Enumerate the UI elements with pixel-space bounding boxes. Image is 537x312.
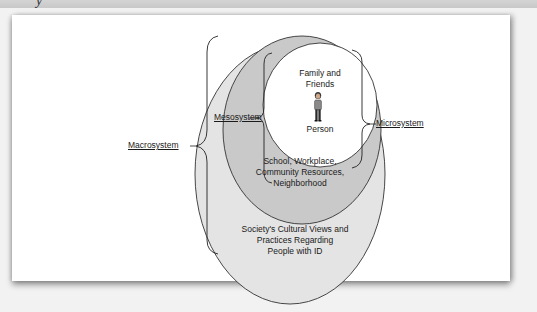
meso-line-3: Neighborhood: [252, 178, 348, 189]
mesosystem-description: School, Workplace, Community Resources, …: [252, 156, 348, 189]
micro-line-1: Family and: [290, 68, 350, 79]
macro-line-2: Practices Regarding: [235, 235, 355, 246]
macrosystem-label: Macrosystem: [128, 140, 179, 151]
mesosystem-label: Mesosystem: [214, 112, 262, 123]
meso-line-2: Community Resources,: [252, 167, 348, 178]
macrosystem-description: Society's Cultural Views and Practices R…: [235, 224, 355, 257]
macro-line-3: People with ID: [235, 246, 355, 257]
person-label: Person: [300, 124, 340, 135]
microsystem-description: Family and Friends: [290, 68, 350, 90]
microsystem-label: Microsystem: [376, 118, 424, 129]
meso-line-1: School, Workplace,: [252, 156, 348, 167]
micro-line-2: Friends: [290, 79, 350, 90]
macro-line-1: Society's Cultural Views and: [235, 224, 355, 235]
